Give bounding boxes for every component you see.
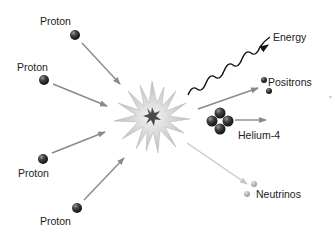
proton-label-4: Proton [40,216,71,227]
fusion-diagram: Proton Proton Proton Proton Energy Posit… [0,0,332,237]
helium-label: Helium-4 [238,130,280,141]
helium-nucleus-icon [207,108,234,135]
fusion-burst-icon [114,81,190,153]
proton-label-2: Proton [17,62,48,73]
neutrinos-label: Neutrinos [256,189,301,200]
positrons-label: Positrons [268,77,312,88]
proton-particles [38,30,82,213]
energy-label: Energy [273,32,306,43]
proton-arrows [52,43,124,200]
proton-label-3: Proton [18,168,49,179]
proton-label-1: Proton [40,16,71,27]
energy-wave-icon [188,37,270,95]
